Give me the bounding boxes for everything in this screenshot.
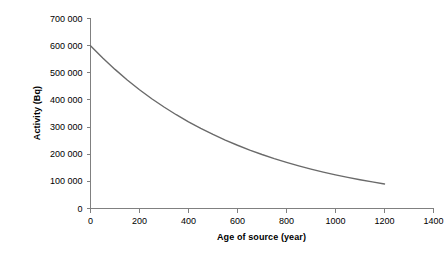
x-axis-ticks bbox=[91, 209, 434, 213]
chart-figure: Activity (Bq) Age of source (year) 0100 … bbox=[0, 0, 444, 257]
data-series-group bbox=[91, 46, 385, 184]
y-axis-ticks bbox=[87, 19, 91, 209]
decay-curve bbox=[91, 46, 385, 184]
plot-area bbox=[0, 0, 444, 257]
